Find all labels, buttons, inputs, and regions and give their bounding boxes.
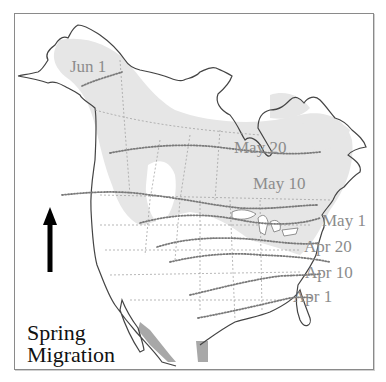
title-line-1: Spring (27, 322, 115, 344)
isochrone-label-apr20: Apr 20 (304, 238, 352, 255)
isochrone-label-may20: May 20 (234, 139, 286, 156)
wintering-range (138, 322, 208, 362)
map-title: Spring Migration (27, 322, 115, 366)
up-arrow-icon (43, 207, 57, 272)
isochrone-label-apr10: Apr 10 (305, 264, 353, 281)
isochrone-label-may1: May 1 (322, 212, 366, 229)
isochrone-label-may10: May 10 (253, 175, 305, 192)
title-line-2: Migration (27, 344, 115, 366)
isochrone-label-jun1: Jun 1 (70, 58, 106, 75)
isochrone-label-apr1: Apr 1 (293, 288, 332, 305)
